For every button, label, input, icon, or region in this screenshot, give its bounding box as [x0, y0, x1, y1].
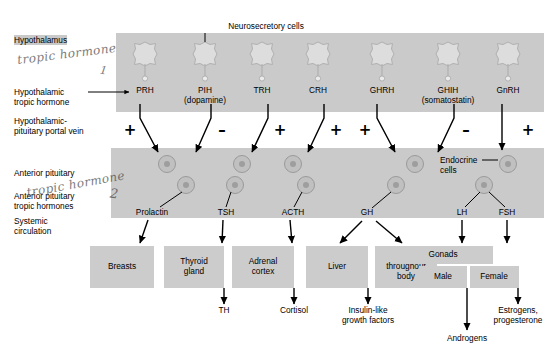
- hormone-name: GHRH: [370, 86, 394, 96]
- label-endocrine-cells: Endocrinecells: [440, 156, 477, 175]
- hormone-name: PRH: [136, 86, 154, 96]
- hormone-name: GnRH: [496, 86, 519, 96]
- end-product-insulin-like-growth-factors: Insulin-likegrowth factors: [342, 306, 394, 325]
- hormone-label-pih: PIH(dopamine): [184, 86, 226, 105]
- target-box-thyroid-gland: Thyroidgland: [164, 246, 224, 288]
- arrow-tsh: [222, 220, 223, 243]
- gonad-subbox-male: Male: [419, 266, 467, 288]
- pituitary-hormone-fsh: FSH: [499, 208, 516, 218]
- target-box-liver: Liver: [306, 246, 368, 288]
- sign-pih: –: [218, 123, 226, 138]
- end-product-estrogens-progesterone: Estrogens,progesterone: [494, 306, 543, 325]
- end-product-cortisol: Cortisol: [280, 306, 308, 316]
- label-hypothalamus: Hypothalamus: [14, 36, 67, 46]
- sign-ghih: –: [462, 123, 470, 138]
- handwriting-number-2: 2: [109, 186, 119, 202]
- sign-crh: +: [330, 123, 343, 138]
- target-box-breasts: Breasts: [90, 246, 154, 288]
- pituitary-hormone-gh: GH: [361, 208, 373, 218]
- target-box-gonads: Gonads: [393, 246, 493, 264]
- label-hypothalamic-tropic-hormone: Hypothalamictropic hormone: [14, 88, 69, 107]
- end-product-th: TH: [218, 306, 229, 316]
- hormone-label-ghih: GHIH(somatostatin): [422, 86, 475, 105]
- hormone-name: TRH: [253, 86, 270, 96]
- label-portal-vein: Hypothalamic-pituitary portal vein: [14, 117, 84, 136]
- anterior-pituitary-band: [111, 148, 544, 218]
- gonad-subbox-female: Female: [470, 266, 519, 288]
- diagram-canvas: Hypothalamus Hypothalamictropic hormone …: [0, 0, 545, 355]
- arrow-gh-liver: [340, 221, 362, 243]
- label-neurosecretory-cells: Neurosecretory cells: [228, 22, 304, 32]
- pituitary-hormone-acth: ACTH: [282, 208, 305, 218]
- label-systemic-circulation: Systemiccirculation: [14, 217, 51, 236]
- end-product-androgens: Androgens: [447, 334, 487, 344]
- hormone-subname: (somatostatin): [422, 96, 475, 106]
- hormone-label-ghrh: GHRH: [370, 86, 394, 96]
- sign-trh: +: [274, 123, 287, 138]
- hormone-label-gnrh: GnRH: [496, 86, 519, 96]
- systemic-arrows: [140, 220, 507, 243]
- hormone-label-prh: PRH: [136, 86, 154, 96]
- hypothalamus-band: [116, 33, 544, 112]
- sign-gnrh: +: [522, 123, 535, 138]
- arrow-prolactin: [140, 220, 148, 243]
- hormone-label-trh: TRH: [253, 86, 270, 96]
- arrow-gh-cells: [376, 221, 402, 243]
- handwriting-number-1: 1: [99, 64, 108, 78]
- arrow-acth: [290, 220, 292, 243]
- target-box-adrenal-cortex: Adrenalcortex: [232, 246, 294, 288]
- sign-ghrh: +: [359, 123, 372, 138]
- label-anterior-pituitary: Anterior pituitary: [14, 169, 74, 179]
- hormone-label-crh: CRH: [309, 86, 327, 96]
- pituitary-hormone-tsh: TSH: [218, 208, 235, 218]
- hormone-name: CRH: [309, 86, 327, 96]
- pituitary-hormone-prolactin: Prolactin: [136, 208, 168, 218]
- pituitary-hormone-lh: LH: [457, 208, 468, 218]
- sign-prh: +: [124, 123, 137, 138]
- hormone-subname: (dopamine): [184, 96, 226, 106]
